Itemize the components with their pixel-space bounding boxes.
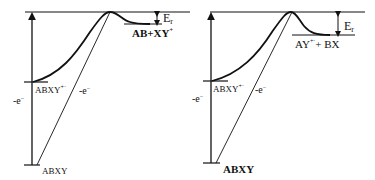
er-label: Er — [344, 19, 354, 34]
product-label: AY+·+ BX — [295, 38, 340, 50]
diagonal-electron-label: -e− — [255, 84, 267, 95]
product-label: AB+XY+ — [132, 27, 173, 39]
radical-cation-label: ABXY+· — [35, 84, 66, 95]
left-panel: Er AB+XY+ ABXY+· -e− -e− ABXY — [13, 11, 190, 176]
fragmentation-curve — [33, 12, 150, 82]
vertical-electron-label: -e− — [13, 95, 25, 106]
er-label: Er — [163, 11, 173, 26]
fragmentation-curve — [212, 12, 330, 81]
vertical-electron-label: -e− — [192, 93, 204, 104]
diagonal-electron-label: -e− — [79, 85, 91, 96]
reactant-label: ABXY — [223, 163, 254, 175]
energy-diagram: Er AB+XY+ ABXY+· -e− -e− ABXY Er AY+·+ B… — [0, 0, 375, 180]
radical-cation-label: ABXY+· — [213, 83, 244, 94]
reactant-label: ABXY — [42, 166, 68, 176]
right-panel: Er AY+·+ BX ABXY+· -e− -e− ABXY — [192, 12, 365, 175]
